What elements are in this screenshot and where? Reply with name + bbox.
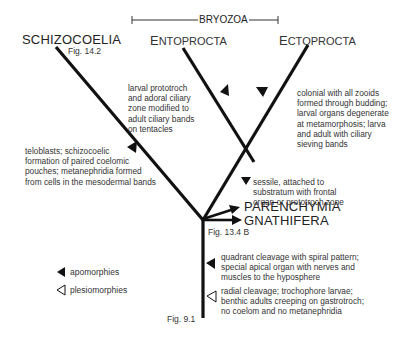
arrow-parenchymia-head xyxy=(229,205,240,214)
bryozoa-label: BRYOZOA xyxy=(198,15,249,25)
character-bryozoa: sessile, attached to substratum with fro… xyxy=(253,177,344,208)
taxon-ectoprocta: ECTOPROCTA xyxy=(279,34,356,47)
fig-ref-gnathifera: Fig. 13.4 B xyxy=(208,228,249,237)
arrow-gnathifera-head xyxy=(232,215,242,225)
character-schizocoelia: teloblasts; schizocoelic formation of pa… xyxy=(25,146,156,187)
taxon-entoprocta: ENTOPROCTA xyxy=(150,34,227,47)
apomorphy-marker-icon xyxy=(220,84,229,96)
character-entoprocta: larval prototroch and adoral ciliary zon… xyxy=(128,83,194,134)
fig-ref-base: Fig. 9.1 xyxy=(167,315,195,324)
character-ectoprocta: colonial with all zooids formed through … xyxy=(297,88,389,149)
apomorphy-marker-icon xyxy=(241,177,251,185)
character-spiralia: quadrant cleavage with spiral pattern; s… xyxy=(221,252,359,283)
legend-plesiomorphies-label: plesiomorphies xyxy=(70,286,127,295)
taxon-gnathifera: GNATHIFERA xyxy=(244,214,329,227)
plesiomorphy-marker-icon xyxy=(207,291,216,302)
apomorphy-marker-icon xyxy=(256,87,268,97)
apomorphy-marker-icon xyxy=(206,258,215,269)
taxon-entoprocta-rest: NTOPROCTA xyxy=(159,35,227,47)
taxon-ectoprocta-rest: CTOPROCTA xyxy=(288,35,356,47)
taxon-ectoprocta-initial: E xyxy=(279,33,288,48)
legend-apomorphies-label: apomorphies xyxy=(70,268,119,277)
taxon-schizocoelia: SCHIZOCOELIA xyxy=(22,33,121,46)
legend-apomorphy-icon xyxy=(57,267,65,277)
taxon-entoprocta-initial: E xyxy=(150,33,159,48)
character-base-plesiomorphies: radial cleavage; trochophore larvae; ben… xyxy=(221,286,364,317)
fig-ref-schizocoelia: Fig. 14.2 xyxy=(68,47,101,56)
legend-plesiomorphy-icon xyxy=(57,285,65,295)
